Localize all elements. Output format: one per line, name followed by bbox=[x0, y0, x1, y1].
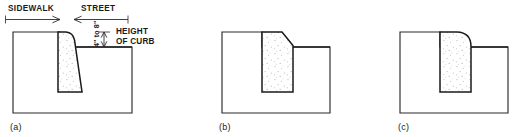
sidewalk-dimension-line bbox=[6, 16, 61, 24]
panel-c: (c) bbox=[398, 32, 508, 132]
panel-b: (b) bbox=[219, 32, 330, 132]
panel-a-caption: (a) bbox=[10, 122, 22, 132]
panel-a-curb-body bbox=[58, 32, 82, 92]
label-curb-height-value: 4" to 8" bbox=[92, 21, 101, 47]
panel-a: SIDEWALK STREET 4" to 8" HEIGHT OF CURB bbox=[6, 4, 155, 132]
panel-b-caption: (b) bbox=[219, 122, 231, 132]
panel-c-caption: (c) bbox=[398, 122, 409, 132]
label-sidewalk: SIDEWALK bbox=[8, 4, 54, 13]
label-height-of-curb-line2: OF CURB bbox=[116, 37, 155, 46]
curb-profiles-figure: SIDEWALK STREET 4" to 8" HEIGHT OF CURB bbox=[0, 0, 524, 137]
street-dimension-line bbox=[74, 16, 128, 24]
label-height-of-curb-line1: HEIGHT bbox=[116, 27, 148, 36]
label-street: STREET bbox=[81, 4, 115, 13]
panel-c-curb-body bbox=[440, 32, 471, 92]
panel-b-curb-body bbox=[262, 32, 293, 92]
